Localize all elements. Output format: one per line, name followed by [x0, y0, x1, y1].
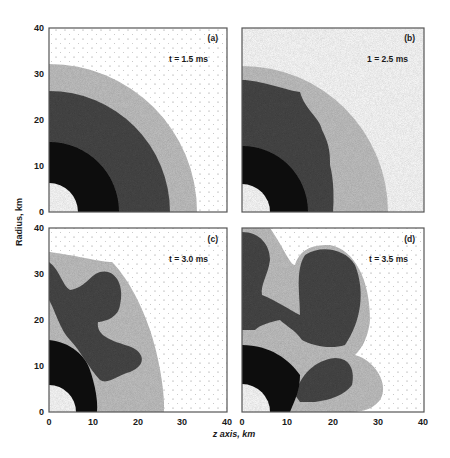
svg-text:10: 10: [34, 161, 44, 171]
svg-text:0: 0: [39, 207, 44, 217]
svg-text:30: 30: [34, 69, 44, 79]
panel-c-time: t = 3.0 ms: [169, 254, 208, 264]
svg-text:30: 30: [177, 417, 187, 427]
y-ticks-bottom: 0 10 20 30 40: [34, 223, 44, 417]
panel-d-tag: (d): [404, 234, 415, 244]
svg-text:10: 10: [88, 417, 98, 427]
figure: (a) t = 1.5 ms (b) 1 = 2.5 ms (c) t = 3.…: [0, 0, 450, 458]
x-ticks-right: 0 10 20 30 40: [239, 417, 428, 427]
svg-text:20: 20: [133, 417, 143, 427]
svg-text:0: 0: [46, 417, 51, 427]
svg-text:40: 40: [418, 417, 428, 427]
panel-d-time: t = 3.5 ms: [369, 254, 408, 264]
svg-text:10: 10: [282, 417, 292, 427]
panel-b-time: 1 = 2.5 ms: [367, 54, 408, 64]
svg-text:10: 10: [34, 361, 44, 371]
y-axis-label: Radius, km: [14, 198, 24, 246]
panel-a-time: t = 1.5 ms: [169, 54, 208, 64]
panel-c-tag: (c): [208, 234, 219, 244]
panel-a-tag: (a): [208, 33, 219, 43]
svg-text:30: 30: [373, 417, 383, 427]
svg-text:20: 20: [34, 115, 44, 125]
svg-text:20: 20: [328, 417, 338, 427]
y-ticks-top: 0 10 20 30 40: [34, 23, 44, 217]
svg-text:40: 40: [34, 23, 44, 33]
panel-c: (c) t = 3.0 ms: [22, 228, 227, 439]
x-axis-label: z axis, km: [212, 429, 256, 439]
svg-text:40: 40: [34, 223, 44, 233]
panel-d: (d) t = 3.5 ms: [214, 228, 424, 440]
svg-text:20: 20: [34, 315, 44, 325]
x-ticks-left: 0 10 20 30 40: [46, 417, 232, 427]
panel-b-tag: (b): [404, 33, 415, 43]
svg-text:40: 40: [222, 417, 232, 427]
svg-text:0: 0: [239, 417, 244, 427]
svg-text:30: 30: [34, 269, 44, 279]
svg-text:0: 0: [39, 407, 44, 417]
